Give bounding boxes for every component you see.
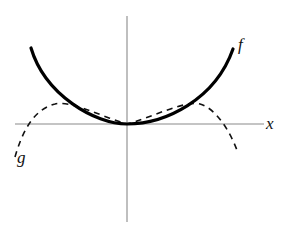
- function-graph: x f g: [0, 0, 289, 231]
- curve-f: [31, 48, 233, 124]
- x-axis-label: x: [265, 114, 274, 133]
- f-curve-label: f: [238, 35, 245, 54]
- g-curve-label: g: [17, 148, 26, 167]
